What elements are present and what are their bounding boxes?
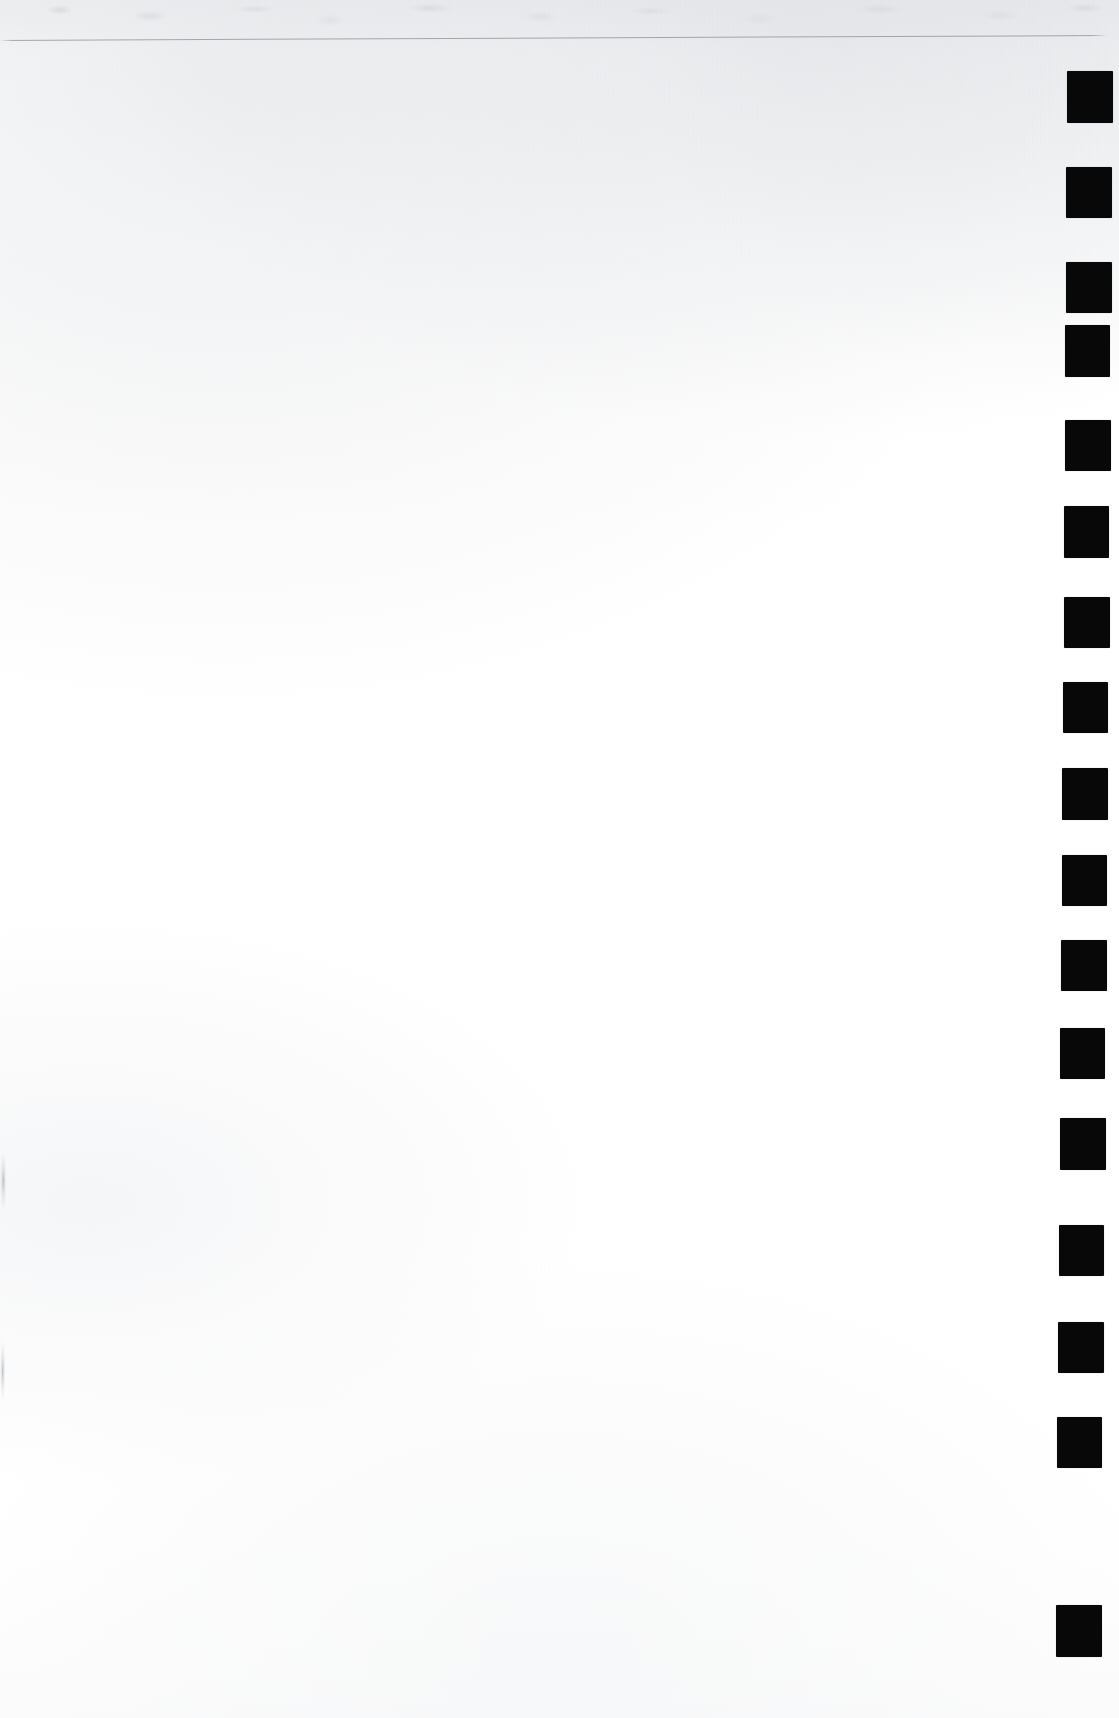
page-body-text: [60, 80, 1020, 1620]
scanned-page: [0, 0, 1119, 1718]
